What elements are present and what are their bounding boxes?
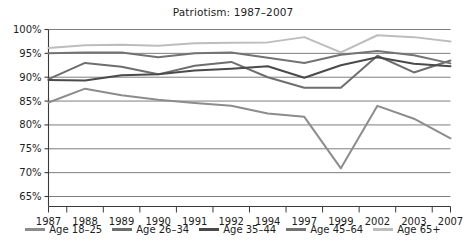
legend-swatch-icon bbox=[25, 228, 45, 231]
y-tick-labels: 65%70%75%80%85%90%95%100% bbox=[13, 24, 42, 202]
chart-legend: Age 18–25Age 26–34Age 35–44Age 45–64Age … bbox=[0, 224, 466, 235]
x-axis bbox=[49, 207, 451, 213]
legend-label: Age 65+ bbox=[397, 224, 441, 235]
legend-entry[interactable]: Age 35–44 bbox=[199, 224, 276, 235]
legend-label: Age 35–44 bbox=[223, 224, 276, 235]
legend-entry[interactable]: Age 65+ bbox=[373, 224, 441, 235]
legend-entry[interactable]: Age 18–25 bbox=[25, 224, 102, 235]
legend-entry[interactable]: Age 26–34 bbox=[112, 224, 189, 235]
series-line-age-26-34 bbox=[49, 56, 451, 88]
y-axis bbox=[45, 30, 49, 207]
series-line-age-65 bbox=[49, 35, 451, 52]
line-chart-plot: 65%70%75%80%85%90%95%100% 19871988198919… bbox=[0, 0, 466, 249]
y-axis-tick-label: 95% bbox=[19, 48, 41, 59]
chart-container: Patriotism: 1987–2007 65%70%75%80%85%90%… bbox=[0, 0, 466, 249]
legend-entry[interactable]: Age 45–64 bbox=[286, 224, 363, 235]
y-axis-tick-label: 85% bbox=[19, 96, 41, 107]
legend-label: Age 26–34 bbox=[136, 224, 189, 235]
y-axis-tick-label: 75% bbox=[19, 143, 41, 154]
y-axis-tick-label: 70% bbox=[19, 167, 41, 178]
y-axis-tick-label: 90% bbox=[19, 72, 41, 83]
legend-label: Age 45–64 bbox=[310, 224, 363, 235]
y-axis-tick-label: 100% bbox=[13, 24, 42, 35]
legend-swatch-icon bbox=[373, 228, 393, 231]
legend-swatch-icon bbox=[112, 228, 132, 231]
legend-label: Age 18–25 bbox=[49, 224, 102, 235]
legend-swatch-icon bbox=[199, 228, 219, 231]
y-axis-tick-label: 65% bbox=[19, 191, 41, 202]
y-axis-tick-label: 80% bbox=[19, 119, 41, 130]
legend-swatch-icon bbox=[286, 228, 306, 231]
